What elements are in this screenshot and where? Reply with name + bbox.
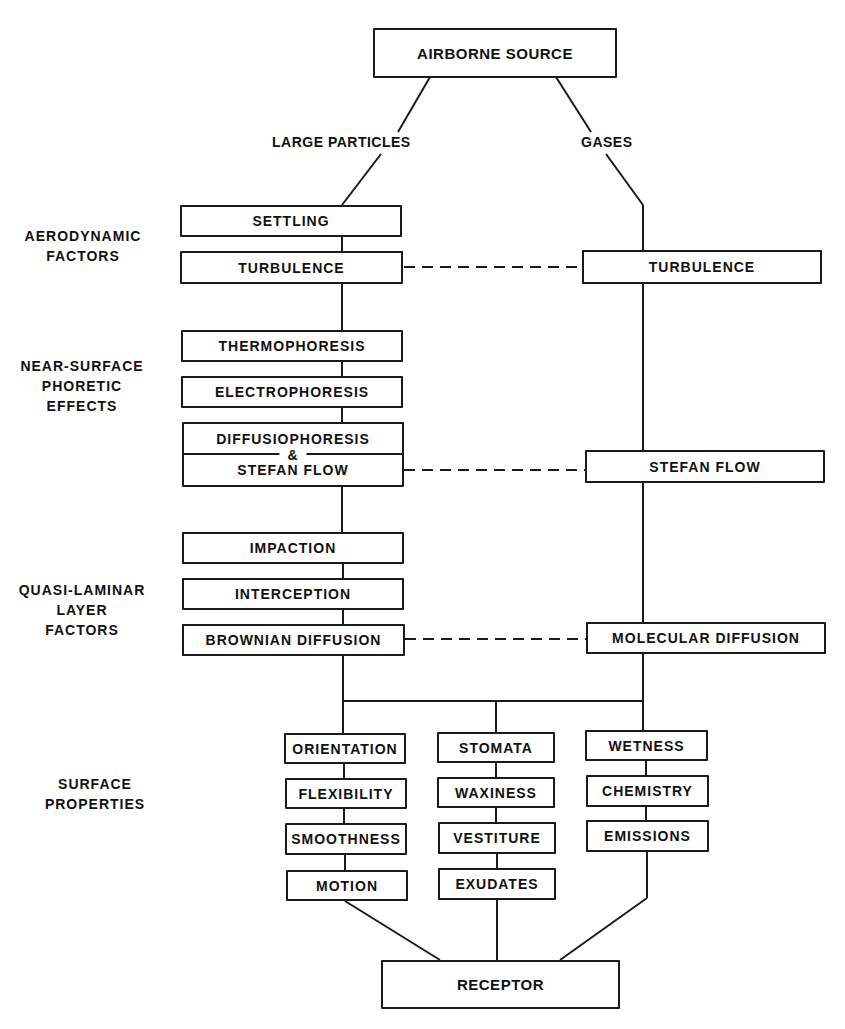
quasi-laminar-factors-label: QUASI-LAMINAR LAYER FACTORS [12, 580, 152, 640]
electrophoresis-node: ELECTROPHORESIS [181, 376, 403, 408]
stomata-node: STOMATA [437, 732, 555, 763]
settling-node: SETTLING [180, 205, 402, 237]
brownian-diffusion-node: BROWNIAN DIFFUSION [182, 624, 405, 656]
flexibility-node: FLEXIBILITY [285, 778, 407, 809]
receptor-node: RECEPTOR [381, 960, 620, 1009]
emissions-node: EMISSIONS [586, 820, 709, 852]
gases-label: GASES [577, 134, 637, 150]
exudates-node: EXUDATES [438, 868, 556, 900]
molecular-diffusion-node: MOLECULAR DIFFUSION [586, 622, 826, 654]
smoothness-node: SMOOTHNESS [285, 823, 407, 855]
surface-properties-label: SURFACE PROPERTIES [30, 774, 160, 814]
diffusiophoresis-stefan-flow-node: DIFFUSIOPHORESIS & STEFAN FLOW [182, 422, 404, 487]
motion-node: MOTION [286, 870, 408, 901]
thermophoresis-node: THERMOPHORESIS [181, 330, 403, 362]
orientation-node: ORIENTATION [284, 733, 406, 764]
chemistry-node: CHEMISTRY [586, 775, 709, 807]
waxiness-node: WAXINESS [437, 777, 555, 808]
aerodynamic-factors-label: AERODYNAMIC FACTORS [18, 226, 148, 266]
wetness-node: WETNESS [585, 730, 708, 761]
gas-stefan-flow-node: STEFAN FLOW [585, 450, 825, 483]
connector-lines [0, 0, 845, 1029]
ampersand-text: & [279, 448, 306, 462]
large-particles-label: LARGE PARTICLES [268, 134, 415, 150]
vestiture-node: VESTITURE [438, 822, 556, 854]
phoretic-effects-label: NEAR-SURFACE PHORETIC EFFECTS [12, 356, 152, 416]
deposition-flowchart: AIRBORNE SOURCE LARGE PARTICLES GASES AE… [0, 0, 845, 1029]
airborne-source-node: AIRBORNE SOURCE [373, 28, 617, 78]
impaction-node: IMPACTION [182, 532, 404, 564]
particle-turbulence-node: TURBULENCE [180, 251, 403, 284]
gas-turbulence-node: TURBULENCE [582, 250, 822, 284]
interception-node: INTERCEPTION [182, 578, 404, 610]
